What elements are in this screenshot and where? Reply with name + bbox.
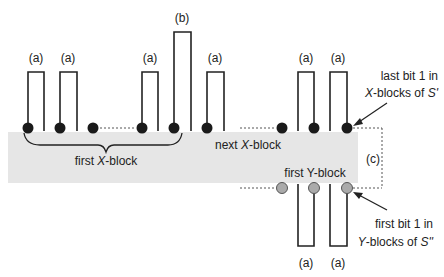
arrowhead-icon bbox=[353, 192, 363, 199]
first-y-block-label: first Y-block bbox=[284, 166, 346, 180]
bit-dot bbox=[202, 123, 213, 134]
bit-dot bbox=[137, 123, 148, 134]
pulse-a-2 bbox=[60, 72, 77, 131]
top-pulses bbox=[28, 32, 347, 131]
last-bit-annotation-line2: X-blocks of S' bbox=[364, 86, 439, 100]
first-bit-annotation-line1: first bit 1 in bbox=[375, 217, 433, 231]
top-dots bbox=[23, 123, 353, 134]
first-bit-annotation-line2: Y-blocks of S'' bbox=[358, 235, 434, 249]
next-x-block-label: next X-block bbox=[215, 138, 282, 152]
pulse-a-3 bbox=[142, 72, 158, 131]
pulse-a-4 bbox=[207, 72, 224, 131]
bit-dot bbox=[277, 123, 288, 134]
label-a: (a) bbox=[331, 256, 346, 270]
label-a: (a) bbox=[208, 51, 223, 65]
pulse-b bbox=[174, 32, 191, 131]
bit-block-diagram: (a) (a) (a) (b) (a) (a) (a) (a) (a) firs… bbox=[0, 0, 444, 277]
bottom-dots bbox=[277, 183, 353, 194]
bit-dot bbox=[88, 123, 99, 134]
label-a: (a) bbox=[299, 256, 314, 270]
bit-dot bbox=[309, 123, 320, 134]
pulse-a-6 bbox=[330, 72, 347, 131]
last-bit-dot bbox=[342, 123, 353, 134]
bit-dot bbox=[23, 123, 34, 134]
label-b: (b) bbox=[175, 11, 190, 25]
bit-dot-gray bbox=[277, 183, 288, 194]
label-a: (a) bbox=[29, 51, 44, 65]
last-bit-annotation-line1: last bit 1 in bbox=[381, 69, 438, 83]
first-bit-arrow bbox=[357, 194, 387, 210]
first-bit-dot bbox=[342, 183, 353, 194]
arrowhead-icon bbox=[353, 118, 363, 126]
pulse-a-1 bbox=[28, 72, 44, 131]
first-x-block-label: first X-block bbox=[75, 154, 139, 168]
bit-dot bbox=[55, 123, 66, 134]
bit-dot-gray bbox=[309, 183, 320, 194]
label-a: (a) bbox=[143, 51, 158, 65]
label-a: (a) bbox=[299, 51, 314, 65]
bit-dot bbox=[169, 123, 180, 134]
label-a: (a) bbox=[331, 51, 346, 65]
pulse-a-5 bbox=[298, 72, 314, 131]
c-label: (c) bbox=[366, 152, 380, 166]
bottom-pulses bbox=[298, 184, 347, 246]
label-a: (a) bbox=[61, 51, 76, 65]
